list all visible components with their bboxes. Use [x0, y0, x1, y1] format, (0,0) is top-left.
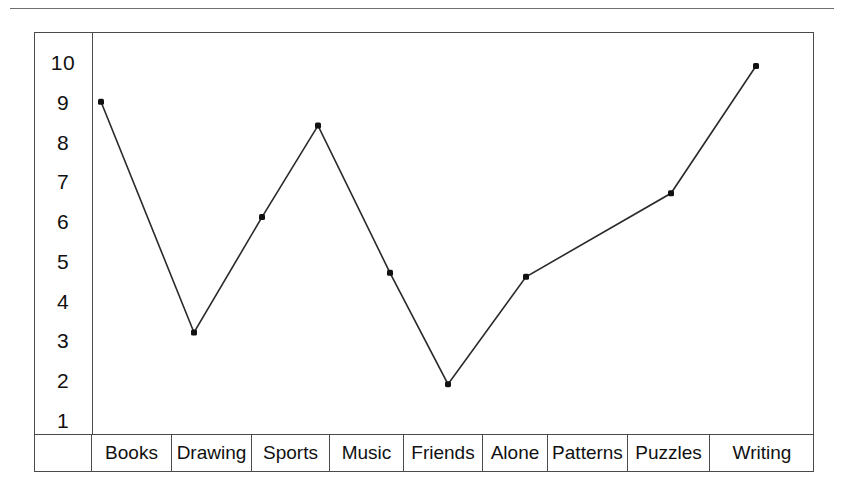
category-label-patterns: Patterns [548, 434, 628, 472]
y-tick-label-5: 5 [34, 251, 92, 272]
category-label-friends: Friends [404, 434, 483, 472]
y-tick-label-6: 6 [34, 211, 92, 232]
y-tick-label-7: 7 [34, 171, 92, 192]
y-tick-label-1: 1 [34, 410, 92, 431]
category-gutter-cell [34, 434, 92, 472]
category-label-writing: Writing [710, 434, 814, 472]
category-label-music: Music [330, 434, 404, 472]
y-tick-label-10: 10 [34, 52, 92, 73]
chart-page: 10987654321 BooksDrawingSportsMusicFrien… [0, 0, 844, 494]
category-label-row: BooksDrawingSportsMusicFriendsAlonePatte… [34, 434, 814, 472]
category-label-puzzles: Puzzles [628, 434, 710, 472]
page-top-rule [10, 8, 834, 9]
y-tick-label-3: 3 [34, 330, 92, 351]
y-tick-label-2: 2 [34, 370, 92, 391]
y-tick-label-4: 4 [34, 291, 92, 312]
y-tick-label-8: 8 [34, 132, 92, 153]
y-tick-label-9: 9 [34, 92, 92, 113]
category-label-books: Books [92, 434, 172, 472]
category-label-sports: Sports [252, 434, 330, 472]
category-label-alone: Alone [483, 434, 548, 472]
chart-frame [34, 32, 814, 472]
y-axis-divider [92, 32, 93, 434]
category-label-drawing: Drawing [172, 434, 252, 472]
